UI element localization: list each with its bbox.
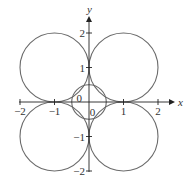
zero-label-upper-left: 0	[77, 92, 83, 104]
x-tick-label: 1	[121, 105, 127, 117]
annotations-group: 00	[77, 92, 96, 118]
y-tick-label: 1	[80, 62, 86, 74]
x-tick-label: −2	[14, 105, 26, 117]
axes-group: x y	[19, 3, 183, 172]
y-tick-label: −1	[73, 131, 85, 143]
diagram: x y −2−112−2−112 00	[0, 0, 185, 187]
x-axis-arrowhead-icon	[169, 99, 175, 105]
zero-label-lower-right: 0	[90, 106, 96, 118]
x-axis-label: x	[177, 96, 183, 108]
y-axis-label: y	[86, 3, 92, 15]
top-right-circle	[89, 33, 158, 102]
y-tick-label: −2	[73, 165, 85, 177]
x-tick-label: −1	[49, 105, 61, 117]
x-tick-label: 2	[155, 105, 161, 117]
y-tick-label: 2	[80, 27, 86, 39]
y-axis-arrowhead-icon	[86, 16, 92, 22]
